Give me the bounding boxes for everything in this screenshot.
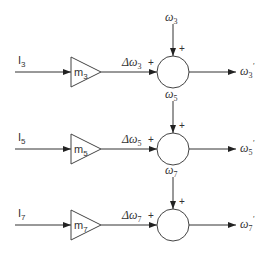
output-label-base: ω (240, 141, 248, 155)
stage-5: I5m5Δω5+ω5+ω5' (15, 87, 254, 165)
input-label-subscript: 3 (21, 60, 26, 69)
gain-output-label-base: Δω (121, 55, 138, 69)
gain-output-label: Δω7 (121, 208, 142, 224)
gain-label-subscript: 5 (83, 149, 88, 158)
external-input-label-base: ω (165, 87, 173, 101)
external-input-label-subscript: 5 (173, 94, 177, 103)
input-label-subscript: 7 (21, 213, 26, 222)
gain-label-base: m (74, 143, 83, 155)
output-label: ω5' (240, 139, 254, 157)
external-input-label-subscript: 3 (173, 17, 177, 26)
summing-junction (157, 133, 189, 165)
input-label: I3 (18, 54, 26, 69)
input-label: I5 (18, 131, 26, 146)
top-sign: + (179, 120, 185, 131)
top-sign: + (179, 43, 185, 54)
gain-output-label-base: Δω (121, 208, 138, 222)
left-sign: + (148, 134, 154, 145)
gain-output-label-subscript: 7 (138, 215, 142, 224)
output-label-subscript: 5 (248, 148, 252, 157)
output-label-base: ω (240, 64, 248, 78)
gain-output-label-subscript: 5 (138, 139, 142, 148)
external-input-label: ω7 (165, 163, 177, 179)
output-label: ω3' (240, 62, 254, 80)
stage-3: I3m3Δω3+ω3+ω3' (15, 10, 254, 88)
gain-label-subscript: 7 (83, 225, 88, 234)
block-diagram: I3m3Δω3+ω3+ω3'I5m5Δω5+ω5+ω5'I7m7Δω7+ω7+ω… (0, 0, 271, 253)
external-input-label: ω5 (165, 87, 177, 103)
gain-output-label: Δω3 (121, 55, 142, 71)
top-sign: + (179, 196, 185, 207)
output-label-subscript: 7 (248, 224, 252, 233)
external-input-label-base: ω (165, 10, 173, 24)
output-label: ω7' (240, 215, 254, 233)
summing-junction (157, 209, 189, 241)
left-sign: + (148, 210, 154, 221)
gain-output-label-subscript: 3 (138, 62, 142, 71)
external-input-label-base: ω (165, 163, 173, 177)
left-sign: + (148, 57, 154, 68)
gain-label-base: m (74, 66, 83, 78)
gain-label-base: m (74, 219, 83, 231)
input-label-subscript: 5 (21, 137, 26, 146)
output-label-base: ω (240, 217, 248, 231)
output-label-superscript: ' (252, 62, 254, 71)
stage-7: I7m7Δω7+ω7+ω7' (15, 163, 254, 241)
output-label-superscript: ' (252, 215, 254, 224)
summing-junction (157, 56, 189, 88)
external-input-label: ω3 (165, 10, 177, 26)
gain-output-label: Δω5 (121, 132, 142, 148)
gain-label-subscript: 3 (83, 72, 88, 81)
gain-output-label-base: Δω (121, 132, 138, 146)
output-label-subscript: 3 (248, 71, 252, 80)
output-label-superscript: ' (252, 139, 254, 148)
input-label: I7 (18, 207, 26, 222)
external-input-label-subscript: 7 (173, 170, 177, 179)
